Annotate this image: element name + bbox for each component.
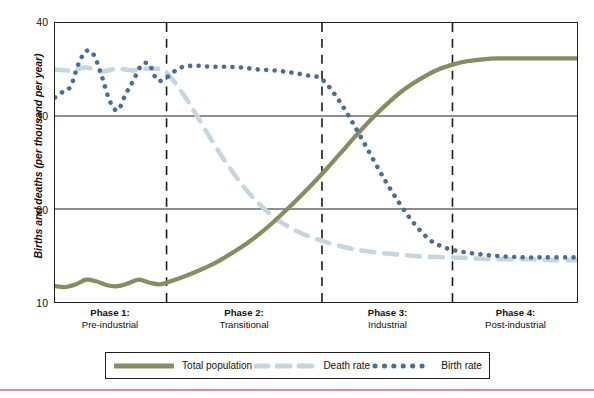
y-tick-10: 10	[26, 298, 48, 309]
phase-dividers	[167, 23, 453, 302]
phase-2-subtitle: Transitional	[166, 319, 322, 331]
legend-label-death-rate: Death rate	[323, 360, 370, 371]
phase-2-title: Phase 2:	[166, 307, 322, 319]
phase-1-title: Phase 1:	[54, 307, 166, 319]
solid-line-swatch	[113, 361, 175, 371]
legend-label-birth-rate: Birth rate	[441, 360, 482, 371]
chart-svg	[55, 23, 577, 302]
chart-legend: Total population Death rate Birth rate	[105, 352, 490, 379]
phase-3-title: Phase 3:	[322, 307, 453, 319]
bottom-rule	[0, 389, 594, 391]
legend-item-total-population[interactable]: Total population	[113, 360, 252, 371]
legend-item-death-rate[interactable]: Death rate	[254, 360, 370, 371]
y-tick-30: 30	[26, 111, 48, 122]
phase-1-subtitle: Pre-industrial	[54, 319, 166, 331]
phase-4-subtitle: Post-industrial	[453, 319, 578, 331]
phase-label-1: Phase 1: Pre-industrial	[54, 307, 166, 330]
plot-area	[54, 22, 578, 303]
gridlines	[55, 116, 577, 209]
series-birth-rate	[55, 50, 577, 257]
series-death-rate	[55, 68, 577, 261]
series-layer	[55, 50, 577, 287]
y-tick-40: 40	[26, 17, 48, 28]
legend-item-birth-rate[interactable]: Birth rate	[372, 360, 482, 371]
y-tick-20: 20	[26, 205, 48, 216]
dashed-line-swatch	[254, 361, 316, 371]
legend-label-total-population: Total population	[182, 360, 252, 371]
series-total-population	[55, 58, 577, 287]
y-axis-ticks: 40 30 20 10	[16, 0, 48, 398]
phase-3-subtitle: Industrial	[322, 319, 453, 331]
phase-label-4: Phase 4: Post-industrial	[453, 307, 578, 330]
dotted-line-swatch	[372, 361, 434, 371]
phase-label-2: Phase 2: Transitional	[166, 307, 322, 330]
phase-4-title: Phase 4:	[453, 307, 578, 319]
demographic-transition-figure: Births and deaths (per thousand per year…	[0, 0, 594, 398]
phase-label-3: Phase 3: Industrial	[322, 307, 453, 330]
